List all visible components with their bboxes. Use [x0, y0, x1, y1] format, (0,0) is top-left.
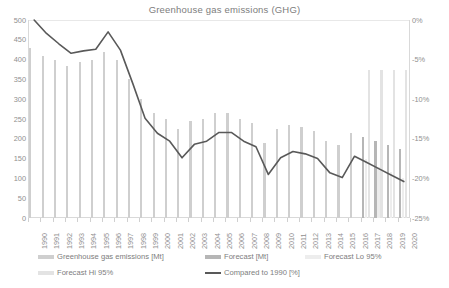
x-axis-label: 2019: [399, 233, 406, 249]
x-axis-label: 1997: [127, 233, 134, 249]
x-axis-label: 2013: [325, 233, 332, 249]
x-axis-label: 2012: [312, 233, 319, 249]
x-axis-label: 2006: [238, 233, 245, 249]
y-axis-left-tick: 250: [2, 116, 26, 123]
legend-label: Greenhouse gas emissions [Mt]: [57, 253, 164, 261]
y-axis-left-tick: 0: [2, 215, 26, 222]
x-axis-label: 1998: [140, 233, 147, 249]
y-axis-left-tick: 200: [2, 135, 26, 142]
y-axis-left: 050100150200250300350400450500: [0, 0, 26, 288]
chart-title: Greenhouse gas emissions (GHG): [0, 4, 449, 15]
legend-label: Forecast Hi 95%: [57, 269, 113, 277]
y-axis-right-tick: -20%: [412, 175, 444, 182]
legend-swatch-icon: [205, 272, 221, 274]
legend-item[interactable]: Forecast Hi 95%: [38, 269, 113, 277]
x-axis-label: 2011: [300, 234, 307, 249]
y-axis-right-tick: -10%: [412, 96, 444, 103]
chart-legend: Greenhouse gas emissions [Mt]Forecast [M…: [0, 253, 449, 287]
y-axis-left-tick: 450: [2, 36, 26, 43]
y-axis-left-tick: 50: [2, 195, 26, 202]
y-axis-left-tick: 500: [2, 17, 26, 24]
x-axis-label: 2017: [374, 233, 381, 249]
compared-to-1990-line: [34, 20, 404, 182]
y-axis-left-tick: 100: [2, 175, 26, 182]
legend-swatch-icon: [305, 255, 321, 259]
y-axis-right-tick: -15%: [412, 135, 444, 142]
y-axis-left-tick: 400: [2, 56, 26, 63]
y-axis-left-tick: 150: [2, 155, 26, 162]
x-axis-label: 2002: [189, 233, 196, 249]
x-axis-label: 2004: [214, 233, 221, 249]
legend-label: Forecast [Mt]: [224, 253, 268, 261]
legend-swatch-icon: [38, 271, 54, 275]
x-axis-label: 2003: [201, 233, 208, 249]
x-axis-label: 2007: [251, 233, 258, 249]
legend-item[interactable]: Greenhouse gas emissions [Mt]: [38, 253, 164, 261]
x-axis-label: 2016: [362, 233, 369, 249]
legend-item[interactable]: Forecast Lo 95%: [305, 253, 381, 261]
legend-swatch-icon: [205, 255, 221, 259]
x-axis-label: 1994: [90, 233, 97, 249]
x-axis-label: 1993: [78, 233, 85, 249]
x-axis-label: 2020: [411, 233, 418, 249]
legend-label: Forecast Lo 95%: [324, 253, 381, 261]
y-axis-right-tick: -25%: [412, 215, 444, 222]
x-axis-label: 1990: [41, 233, 48, 249]
legend-swatch-icon: [38, 255, 54, 259]
legend-item[interactable]: Forecast [Mt]: [205, 253, 268, 261]
y-axis-right-tick: -5%: [412, 56, 444, 63]
x-axis-label: 2010: [288, 233, 295, 249]
x-axis-label: 2009: [275, 233, 282, 249]
x-axis-label: 1991: [53, 233, 60, 249]
x-axis-label: 2008: [263, 233, 270, 249]
legend-label: Compared to 1990 [%]: [224, 269, 300, 277]
x-axis-label: 1999: [152, 233, 159, 249]
chart-container: Greenhouse gas emissions (GHG) 050100150…: [0, 0, 449, 288]
x-axis-label: 2005: [226, 233, 233, 249]
x-axis-label: 1996: [115, 233, 122, 249]
y-axis-left-tick: 350: [2, 76, 26, 83]
x-axis-label: 1995: [103, 233, 110, 249]
x-axis-label: 2018: [386, 233, 393, 249]
x-axis-tick: [410, 218, 411, 222]
x-axis-label: 2014: [337, 233, 344, 249]
line-series-layer: [28, 20, 410, 218]
x-axis-label: 2000: [164, 233, 171, 249]
x-axis-label: 2015: [349, 233, 356, 249]
y-axis-left-tick: 300: [2, 96, 26, 103]
x-axis-label: 2001: [177, 233, 184, 249]
legend-item[interactable]: Compared to 1990 [%]: [205, 269, 300, 277]
x-axis-labels: 1990199119921993199419951996199719981999…: [28, 222, 410, 252]
y-axis-right-tick: 0%: [412, 17, 444, 24]
x-axis-label: 1992: [66, 233, 73, 249]
